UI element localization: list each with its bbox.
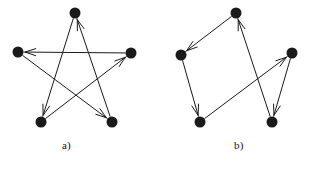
node-layer [13, 8, 137, 128]
graph-panel-b [176, 8, 298, 128]
vertex-left [176, 50, 187, 61]
panel-label-a: a) [62, 139, 71, 151]
edge-line [77, 18, 110, 117]
edge-line [45, 56, 126, 118]
graph-canvas [0, 0, 313, 175]
edge-line [185, 16, 231, 51]
edge-bottom-right-to-top [238, 18, 271, 117]
edge-line [238, 18, 271, 117]
edge-line [204, 56, 287, 118]
vertex-bottom-right [267, 117, 278, 128]
edge-layer [22, 18, 126, 119]
panel-label-b: b) [234, 139, 244, 151]
edge-bottom-left-to-right [45, 56, 126, 118]
vertex-right [287, 48, 298, 59]
edge-top-to-left [185, 16, 231, 51]
edge-top-to-bottom-left [43, 18, 74, 117]
edge-bottom-left-to-right [204, 56, 287, 118]
vertex-bottom-left [36, 117, 47, 128]
vertex-top [70, 8, 81, 19]
edge-right-to-bottom-right [274, 58, 291, 116]
edge-layer [183, 16, 291, 118]
edge-bottom-right-to-top [77, 18, 110, 117]
edge-line [274, 58, 291, 116]
edge-line [22, 55, 107, 118]
vertex-right [126, 48, 137, 59]
edge-line [24, 52, 126, 53]
directed-graph-figure: a) b) [0, 0, 313, 175]
edge-left-to-bottom-right [22, 55, 107, 118]
edge-left-to-bottom-left [183, 60, 199, 116]
vertex-top [231, 8, 242, 19]
edge-line [183, 60, 199, 116]
graph-panel-a [13, 8, 137, 128]
vertex-bottom-right [107, 117, 118, 128]
vertex-bottom-left [195, 117, 206, 128]
edge-right-to-left [24, 49, 126, 56]
edge-line [43, 18, 74, 117]
vertex-left [13, 47, 24, 58]
